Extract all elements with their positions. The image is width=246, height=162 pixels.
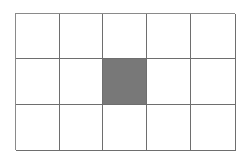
grid-cell [60, 59, 103, 105]
grid-cell [147, 59, 191, 105]
grid-cell [147, 14, 191, 59]
shaded-grid-cell [103, 59, 147, 105]
grid-cell [191, 59, 236, 105]
grid-cell [60, 14, 103, 59]
grid-cell [147, 105, 191, 151]
grid-cell [103, 14, 147, 59]
grid-cell [16, 14, 60, 59]
grid-cell [16, 59, 60, 105]
grid-cell [60, 105, 103, 151]
grid-cell [191, 14, 236, 59]
grid-cell [16, 105, 60, 151]
grid-cell [191, 105, 236, 151]
grid-cell [103, 105, 147, 151]
grid-diagram [15, 13, 235, 150]
